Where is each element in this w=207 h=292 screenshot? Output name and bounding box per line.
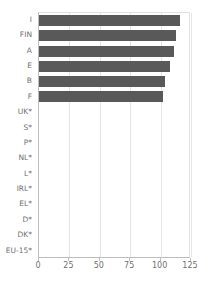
y-tick-label: F (0, 89, 35, 104)
bar-chart: IFINAEBFUK*S*P*NL*L*IRL*EL*D*DK*EU-15* 0… (0, 0, 207, 292)
bar-b (39, 76, 165, 87)
bar-row (39, 242, 189, 257)
bar-fin (39, 30, 176, 41)
y-tick-label: DK* (0, 227, 35, 242)
bar-a (39, 46, 174, 57)
y-tick-label: EL* (0, 197, 35, 212)
bar-row (39, 74, 189, 89)
y-tick-label: P* (0, 135, 35, 150)
bar-i (39, 15, 180, 26)
y-tick-label: NL* (0, 150, 35, 165)
bar-rows (39, 13, 189, 257)
y-tick-label: EU-15* (0, 243, 35, 258)
bar-row (39, 44, 189, 59)
bar-row (39, 227, 189, 242)
x-tick-label: 125 (182, 262, 197, 270)
y-tick-label: L* (0, 166, 35, 181)
x-tick-label: 0 (35, 262, 40, 270)
x-tick-label: 25 (63, 262, 73, 270)
bar-row (39, 150, 189, 165)
bar-e (39, 61, 170, 72)
x-tick-label: 50 (94, 262, 104, 270)
y-axis-labels: IFINAEBFUK*S*P*NL*L*IRL*EL*D*DK*EU-15* (0, 12, 35, 258)
bar-row (39, 211, 189, 226)
gridline (191, 13, 192, 257)
bar-row (39, 181, 189, 196)
y-tick-label: B (0, 74, 35, 89)
bar-row (39, 135, 189, 150)
y-tick-label: D* (0, 212, 35, 227)
y-tick-label: UK* (0, 104, 35, 119)
bar-f (39, 91, 163, 102)
x-tick-label: 100 (152, 262, 167, 270)
x-axis-labels: 0255075100125 (0, 262, 207, 276)
y-tick-label: A (0, 43, 35, 58)
bar-row (39, 28, 189, 43)
plot-area (38, 12, 190, 258)
y-tick-label: FIN (0, 27, 35, 42)
bar-row (39, 196, 189, 211)
bar-row (39, 105, 189, 120)
bar-row (39, 59, 189, 74)
bar-row (39, 13, 189, 28)
y-tick-label: I (0, 12, 35, 27)
bar-row (39, 89, 189, 104)
y-tick-label: S* (0, 120, 35, 135)
bar-row (39, 120, 189, 135)
y-tick-label: E (0, 58, 35, 73)
x-tick-label: 75 (124, 262, 134, 270)
y-tick-label: IRL* (0, 181, 35, 196)
bar-row (39, 166, 189, 181)
